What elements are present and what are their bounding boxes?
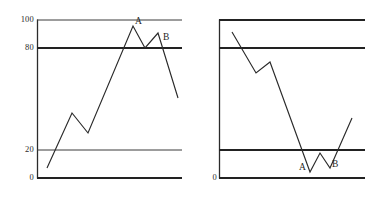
figure-container: 100 80 20 0 A B 0 A B — [0, 0, 376, 197]
right-trough-label-b: B — [332, 160, 338, 170]
right-ytick-0: 0 — [206, 173, 217, 182]
right-trough-label-a: A — [299, 163, 306, 173]
right-chart-canvas — [0, 0, 376, 197]
